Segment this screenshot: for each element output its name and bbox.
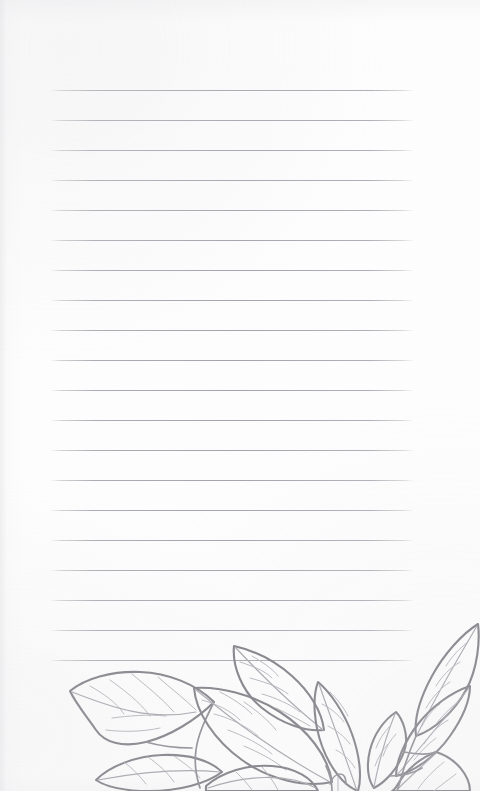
ruled-line <box>50 180 414 181</box>
ruled-line <box>50 270 414 271</box>
ruled-line <box>50 90 414 91</box>
ruled-line <box>50 420 414 421</box>
ruled-line <box>50 120 414 121</box>
notebook-page: Blank ruled notebook page with botanical… <box>0 0 480 791</box>
ruled-line <box>50 210 414 211</box>
leaf-center-upper <box>234 646 324 730</box>
ruled-line <box>50 240 414 241</box>
leaf-right-small <box>368 712 406 788</box>
leaf-border-illustration <box>0 616 480 791</box>
ruled-line <box>50 570 414 571</box>
leaf-left-upper <box>70 672 214 744</box>
ruled-line <box>50 600 414 601</box>
stem-left-branch <box>146 742 192 748</box>
ruled-line <box>50 360 414 361</box>
ruled-line <box>50 300 414 301</box>
ruled-line <box>50 390 414 391</box>
ruled-line <box>50 540 414 541</box>
ruled-line <box>50 150 414 151</box>
leaf-left-lower <box>96 755 222 791</box>
ruled-line <box>50 480 414 481</box>
ruled-line <box>50 450 414 451</box>
ruled-line <box>50 510 414 511</box>
leaf-right-mid <box>396 686 470 776</box>
leaf-center-lower <box>206 766 318 791</box>
leaf-right-upper <box>416 624 479 736</box>
ruled-line <box>50 330 414 331</box>
